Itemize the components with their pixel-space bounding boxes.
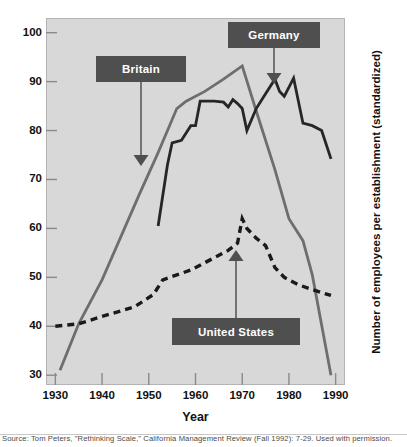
y-axis-tick-label: 100: [2, 27, 42, 39]
x-axis-tick-label: 1930: [32, 390, 78, 402]
callout-germany-arrowhead: [267, 73, 282, 84]
y-axis-tick-label: 90: [2, 76, 42, 88]
chart-figure: 30405060708090100 1930194019501960197019…: [0, 0, 407, 447]
callout-britain-arrowhead: [134, 155, 149, 166]
series-line-united-states: [55, 219, 331, 327]
source-note: Source: Tom Peters, "Rethinking Scale," …: [0, 434, 407, 447]
callout-britain[interactable]: Britain: [96, 56, 186, 82]
callout-germany[interactable]: Germany: [228, 22, 320, 48]
y-axis-tick-labels: 30405060708090100: [0, 0, 42, 447]
callout-britain-label: Britain: [122, 63, 160, 75]
series-line-germany: [158, 78, 331, 226]
y-axis-tick-label: 30: [2, 369, 42, 381]
y-axis-title: Number of employees per establishment (s…: [345, 18, 407, 385]
x-axis-tick-label: 1940: [79, 390, 125, 402]
y-axis-title-text: Number of employees per establishment (s…: [370, 50, 382, 354]
y-axis-tick-label: 70: [2, 173, 42, 185]
x-axis-tick-label: 1970: [219, 390, 265, 402]
y-axis-tick-label: 50: [2, 271, 42, 283]
x-axis-tick-label: 1950: [126, 390, 172, 402]
y-axis-tick-label: 80: [2, 125, 42, 137]
source-note-text: Source: Tom Peters, "Rethinking Scale," …: [2, 434, 392, 443]
x-axis-title: Year: [46, 410, 345, 424]
x-axis-tick-labels: 1930194019501960197019801990: [0, 390, 407, 406]
x-axis-tick-label: 1990: [313, 390, 359, 402]
callout-germany-label: Germany: [248, 29, 299, 41]
y-axis-tick-label: 60: [2, 222, 42, 234]
callout-united-states[interactable]: United States: [172, 318, 300, 345]
x-axis-tick-label: 1960: [173, 390, 219, 402]
x-axis-tick-label: 1980: [266, 390, 312, 402]
y-axis-tick-label: 40: [2, 320, 42, 332]
callout-united-states-label: United States: [198, 326, 274, 338]
callout-united-states-arrowhead: [229, 250, 244, 261]
